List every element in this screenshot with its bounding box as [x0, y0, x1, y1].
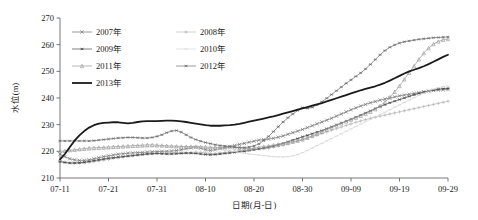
series-line [60, 101, 448, 163]
legend-item-2007年[interactable]: 2007年 [72, 27, 122, 37]
x-tick-label: 08-10 [196, 184, 216, 194]
legend-label: 2007年 [96, 27, 122, 37]
legend-item-2009年[interactable]: 2009年 [72, 44, 122, 54]
legend-label: 2013年 [96, 78, 122, 88]
x-tick-label: 07-11 [50, 184, 70, 194]
x-axis-title: 日期(月-日) [232, 200, 277, 210]
x-tick-label: 08-30 [293, 184, 313, 194]
x-tick-label: 09-09 [341, 184, 361, 194]
x-tick-label: 09-19 [390, 184, 410, 194]
chart-legend: 2007年2008年2009年2010年2011年2012年2013年 [72, 27, 226, 88]
x-axis: 07-1107-2107-3108-1008-2008-3009-0909-19… [50, 178, 458, 194]
y-tick-label: 230 [41, 120, 54, 130]
y-tick-label: 250 [41, 66, 54, 76]
y-tick-label: 270 [41, 13, 54, 23]
y-tick-label: 210 [41, 173, 54, 183]
legend-label: 2009年 [96, 44, 122, 54]
y-tick-label: 260 [41, 40, 54, 50]
legend-item-2008年[interactable]: 2008年 [176, 27, 226, 37]
legend-label: 2008年 [200, 27, 226, 37]
legend-item-2013年[interactable]: 2013年 [72, 78, 122, 88]
water-level-chart: 210220230240250260270 07-1107-2107-3108-… [0, 0, 478, 220]
x-tick-label: 09-29 [438, 184, 458, 194]
legend-item-2011年[interactable]: 2011年 [72, 61, 122, 71]
y-tick-label: 240 [41, 93, 54, 103]
x-tick-label: 07-21 [99, 184, 119, 194]
series-layer [58, 36, 449, 165]
series-2011年 [58, 37, 449, 153]
y-axis-title: 水位(m) [10, 83, 20, 113]
legend-label: 2012年 [200, 61, 226, 71]
x-tick-label: 07-31 [147, 184, 167, 194]
legend-label: 2011年 [96, 61, 122, 71]
y-tick-label: 220 [41, 146, 54, 156]
legend-item-2010年[interactable]: 2010年 [176, 44, 226, 54]
y-axis: 210220230240250260270 [41, 13, 60, 183]
series-line [60, 88, 448, 163]
legend-item-2012年[interactable]: 2012年 [176, 61, 226, 71]
legend-label: 2010年 [200, 44, 226, 54]
chart-canvas: 210220230240250260270 07-1107-2107-3108-… [0, 0, 478, 220]
x-tick-label: 08-20 [244, 184, 264, 194]
